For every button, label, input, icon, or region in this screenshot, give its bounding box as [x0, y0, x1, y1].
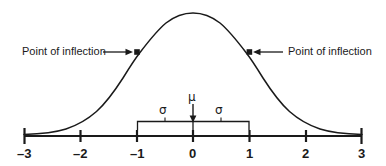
normal-distribution-figure: Point of inflection Point of inflection …	[0, 0, 386, 166]
sigma-left-label: σ	[159, 104, 167, 116]
axis-label--2: –2	[73, 147, 87, 160]
inflection-left-arrow-head	[126, 49, 134, 56]
point-of-inflection-right-label: Point of inflection	[288, 46, 372, 57]
point-of-inflection-right-marker	[247, 49, 253, 55]
mu-label: μ	[188, 91, 196, 103]
axis-label--1: –1	[130, 147, 144, 160]
sigma-right-label: σ	[215, 104, 223, 116]
inflection-right-arrow-head	[253, 49, 261, 56]
point-of-inflection-left-label: Point of inflection	[22, 46, 106, 57]
distribution-canvas	[0, 0, 386, 166]
axis-label-3: 3	[358, 147, 365, 160]
axis-label--3: –3	[17, 147, 31, 160]
axis-label-2: 2	[302, 147, 309, 160]
axis-label-1: 1	[246, 147, 253, 160]
point-of-inflection-left-marker	[134, 49, 140, 55]
axis-label-0: 0	[189, 147, 196, 160]
